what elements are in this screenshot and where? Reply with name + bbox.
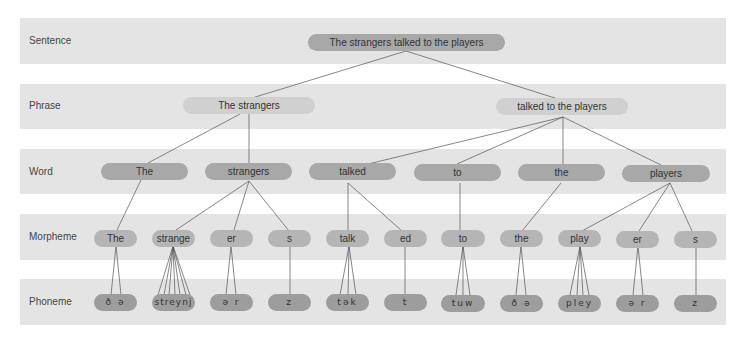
phoneme-node: tək [326,294,369,311]
phoneme-node: ð ə [500,295,543,312]
phrase-node: The strangers [183,97,315,114]
sentence-node: The strangers talked to the players [308,34,505,51]
word-node: strangers [205,163,292,180]
word-node: talked [309,163,396,180]
level-label-sentence: Sentence [29,35,71,46]
phoneme-node: ə r [210,294,253,311]
morpheme-node: strange [152,230,195,247]
word-node: The [101,163,188,180]
morpheme-node: talk [326,230,369,247]
morpheme-node: ed [384,230,427,247]
phoneme-node: ð ə [94,294,137,311]
morpheme-node: s [674,231,717,248]
phrase-node: talked to the players [496,98,628,115]
phoneme-node: ə r [616,295,659,312]
word-node: players [622,165,710,182]
phoneme-node: tuw [441,295,485,312]
level-label-phoneme: Phoneme [29,296,72,307]
level-label-word: Word [29,166,53,177]
morpheme-node: play [558,230,601,247]
morpheme-node: The [94,230,137,247]
phoneme-node: z [268,294,311,311]
morpheme-node: er [210,230,253,247]
word-node: the [518,164,605,181]
word-node: to [414,164,501,181]
morpheme-node: to [441,230,485,247]
morpheme-node: s [268,230,311,247]
morpheme-node: er [616,231,659,248]
phoneme-node: streynj [152,294,195,311]
level-label-morpheme: Morpheme [29,231,77,242]
phoneme-node: z [674,295,717,312]
phoneme-node: pley [558,295,601,312]
phoneme-node: t [384,294,427,311]
morpheme-node: the [500,230,543,247]
level-label-phrase: Phrase [29,100,61,111]
